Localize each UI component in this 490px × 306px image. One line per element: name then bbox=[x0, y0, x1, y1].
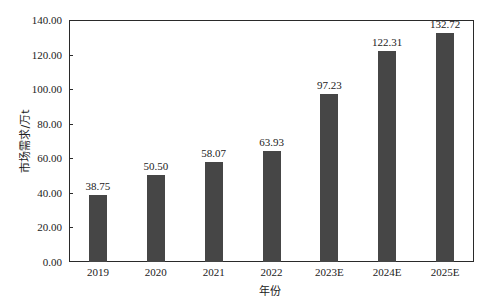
bar-2022 bbox=[263, 151, 281, 262]
bar-2020 bbox=[147, 175, 165, 262]
bar-value-label: 50.50 bbox=[126, 160, 186, 172]
x-tick-label: 2021 bbox=[184, 266, 244, 278]
bar-2019 bbox=[89, 195, 107, 262]
y-tick-mark bbox=[69, 158, 73, 159]
x-tick-label: 2024E bbox=[357, 266, 417, 278]
y-tick-mark bbox=[69, 124, 73, 125]
bar-value-label: 97.23 bbox=[299, 79, 359, 91]
x-tick-label: 2019 bbox=[68, 266, 128, 278]
y-tick-mark bbox=[69, 55, 73, 56]
x-tick-label: 2023E bbox=[299, 266, 359, 278]
y-tick-label: 20.00 bbox=[0, 221, 62, 233]
bar-value-label: 38.75 bbox=[68, 180, 128, 192]
bar-2021 bbox=[205, 162, 223, 262]
bar-chart: 0.0020.0040.0060.0080.00100.00120.00140.… bbox=[0, 0, 490, 306]
bar-2024E bbox=[378, 51, 396, 262]
bar-2023E bbox=[320, 94, 338, 262]
bar-value-label: 63.93 bbox=[242, 136, 302, 148]
bar-value-label: 132.72 bbox=[415, 18, 475, 30]
x-tick-label: 2022 bbox=[242, 266, 302, 278]
y-tick-label: 140.00 bbox=[0, 14, 62, 26]
x-tick-label: 2025E bbox=[415, 266, 475, 278]
y-tick-label: 120.00 bbox=[0, 49, 62, 61]
y-tick-mark bbox=[69, 193, 73, 194]
y-tick-mark bbox=[69, 227, 73, 228]
y-axis-label: 市场需求/万t bbox=[16, 91, 32, 191]
bar-value-label: 122.31 bbox=[357, 36, 417, 48]
y-tick-mark bbox=[69, 89, 73, 90]
y-tick-label: 0.00 bbox=[0, 256, 62, 268]
x-axis-label: 年份 bbox=[240, 282, 300, 298]
bar-2025E bbox=[436, 33, 454, 262]
x-tick-label: 2020 bbox=[126, 266, 186, 278]
bar-value-label: 58.07 bbox=[184, 147, 244, 159]
